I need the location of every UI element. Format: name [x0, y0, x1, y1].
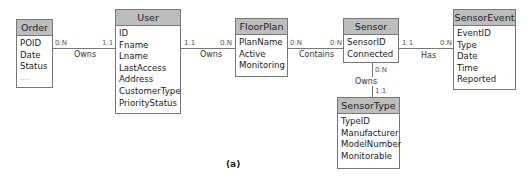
entity-sensorevent: SensorEvent EventID Type Date Time Repor… [453, 9, 516, 90]
attribute: Reported [457, 74, 512, 86]
cardinality-label: 0:N [220, 39, 232, 47]
attribute: Status [20, 61, 49, 73]
figure-caption: (a) [226, 159, 240, 169]
attribute: Address [119, 74, 177, 86]
attribute: Date [20, 50, 49, 62]
cardinality-label: 0:N [290, 39, 302, 47]
entity-sensor: Sensor SensorID Connected [343, 18, 399, 63]
cardinality-label: 0:N [440, 39, 452, 47]
attribute: Date [457, 51, 512, 63]
attribute: PlanName [239, 37, 284, 49]
attribute: Type [457, 40, 512, 52]
relationship-line [288, 48, 343, 49]
attribute: CustomerType [119, 86, 177, 98]
attribute: TypeID [341, 116, 396, 128]
relationship-label: Contains [299, 50, 334, 59]
entity-title: FloorPlan [236, 19, 287, 35]
attribute: Manufacturer [341, 128, 396, 140]
relationship-label: Owns [355, 77, 377, 86]
attribute: Active [239, 49, 284, 61]
cardinality-label: 0:N [330, 39, 342, 47]
relationship-line [181, 48, 235, 49]
cardinality-label: 1:1 [375, 87, 386, 95]
relationship-label: Owns [200, 50, 222, 59]
entity-user: User ID Fname Lname LastAccess Address C… [115, 9, 181, 114]
attribute: .... [20, 73, 49, 85]
entity-sensortype: SensorType TypeID Manufacturer ModelNumb… [337, 97, 400, 169]
attribute: Fname [119, 40, 177, 52]
entity-floorplan: FloorPlan PlanName Active Monitoring [235, 18, 288, 77]
entity-title: SensorEvent [454, 10, 515, 26]
cardinality-label: 1:1 [102, 39, 113, 47]
attribute: POID [20, 38, 49, 50]
attribute: PriorityStatus [119, 98, 177, 110]
cardinality-label: 1:1 [184, 39, 195, 47]
attribute: Monitoring [239, 60, 284, 72]
entity-title: User [116, 10, 180, 26]
attribute: SensorID [347, 37, 395, 49]
attribute: ModelNumber [341, 139, 396, 151]
cardinality-label: 0:N [55, 39, 67, 47]
relationship-line [399, 48, 453, 49]
cardinality-label: 0:N [375, 66, 387, 74]
cardinality-label: 1:1 [402, 39, 413, 47]
attribute: Connected [347, 49, 395, 61]
relationship-line [53, 48, 115, 49]
attribute: Lname [119, 51, 177, 63]
attribute: ID [119, 28, 177, 40]
entity-title: SensorType [338, 98, 399, 114]
attribute: EventID [457, 28, 512, 40]
attribute: Monitorable [341, 151, 396, 163]
attribute: Time [457, 63, 512, 75]
relationship-label: Has [421, 51, 436, 60]
entity-order: Order POID Date Status .... [16, 19, 53, 88]
entity-title: Order [17, 20, 52, 36]
attribute: LastAccess [119, 63, 177, 75]
relationship-label: Owns [74, 50, 96, 59]
entity-title: Sensor [344, 19, 398, 35]
